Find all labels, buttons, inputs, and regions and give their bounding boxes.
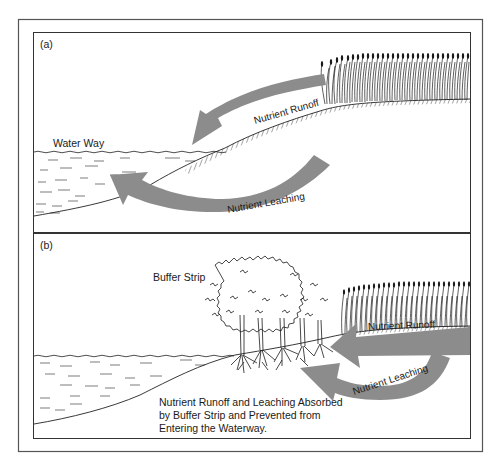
water-surface-b (34, 355, 234, 357)
leaching-arrow-a (110, 155, 330, 212)
buffer-strip-trees (205, 256, 333, 373)
runoff-label-b: Nutrient Runoff (368, 319, 436, 332)
panel-b-caption: Nutrient Runoff and Leaching Absorbed by… (159, 396, 343, 435)
grain-heads-b (343, 281, 470, 295)
leaching-arrow-b (300, 352, 450, 401)
water-surface (34, 151, 226, 153)
panel-b-label: (b) (40, 239, 53, 251)
caption-line-3: Entering the Waterway. (159, 422, 343, 435)
buffer-strip-label: Buffer Strip (153, 271, 205, 283)
waterway-label: Water Way (53, 137, 105, 149)
caption-line-2: by Buffer Strip and Prevented from (159, 409, 343, 422)
panel-a: (a) Water Way Nutrient Runoff Nutrient L… (34, 38, 470, 216)
grain-heads (321, 53, 469, 67)
caption-line-1: Nutrient Runoff and Leaching Absorbed (159, 396, 343, 409)
panel-a-label: (a) (40, 38, 53, 50)
crop-field (321, 56, 469, 104)
